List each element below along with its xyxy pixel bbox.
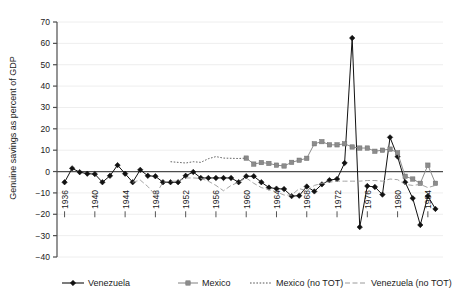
data-point-marker xyxy=(267,161,271,165)
data-point-marker xyxy=(342,142,346,146)
chart-figure: −40−30−20−10010203040506070 193619401944… xyxy=(0,0,453,300)
data-point-marker xyxy=(403,174,407,178)
y-tick-label: −30 xyxy=(36,231,51,241)
data-point-marker xyxy=(252,162,256,166)
data-point-marker xyxy=(282,164,286,168)
data-point-marker xyxy=(358,146,362,150)
x-tick-label: 1960 xyxy=(242,190,252,209)
data-point-marker xyxy=(426,163,430,167)
x-tick-label: 1968 xyxy=(302,190,312,209)
legend-label: Venezuela (no TOT) xyxy=(371,278,452,288)
data-point-marker xyxy=(411,177,415,181)
x-tick-label: 1976 xyxy=(363,190,373,209)
y-tick-label: 40 xyxy=(41,81,51,91)
legend-label: Venezuela xyxy=(88,278,130,288)
y-tick-label: 30 xyxy=(41,102,51,112)
y-tick-label: −20 xyxy=(36,209,51,219)
y-axis-title: Genuine savings as percent of GDP xyxy=(8,56,18,200)
x-tick-label: 1972 xyxy=(333,190,343,209)
data-point-marker xyxy=(395,151,399,155)
data-point-marker xyxy=(335,143,339,147)
data-point-marker xyxy=(388,147,392,151)
x-tick-label: 1948 xyxy=(151,190,161,209)
data-point-marker xyxy=(186,281,190,285)
data-point-marker xyxy=(259,160,263,164)
legend-label: Mexico xyxy=(202,278,231,288)
data-point-marker xyxy=(297,158,301,162)
y-tick-label: 0 xyxy=(45,167,50,177)
x-tick-label: 1952 xyxy=(181,190,191,209)
data-point-marker xyxy=(305,156,309,160)
y-tick-label: 50 xyxy=(41,60,51,70)
data-point-marker xyxy=(373,149,377,153)
data-point-marker xyxy=(365,146,369,150)
data-point-marker xyxy=(312,142,316,146)
data-point-marker xyxy=(320,139,324,143)
y-tick-label: 10 xyxy=(41,145,51,155)
legend-label: Mexico (no TOT) xyxy=(276,278,343,288)
genuine-savings-line-chart: −40−30−20−10010203040506070 193619401944… xyxy=(0,0,453,300)
data-point-marker xyxy=(289,160,293,164)
x-tick-label: 1936 xyxy=(60,190,70,209)
y-tick-label: −40 xyxy=(36,252,51,262)
y-tick-label: −10 xyxy=(36,188,51,198)
x-tick-label: 1956 xyxy=(211,190,221,209)
x-tick-label: 1964 xyxy=(272,190,282,209)
x-tick-label: 1940 xyxy=(90,190,100,209)
data-point-marker xyxy=(274,163,278,167)
y-tick-label: 20 xyxy=(41,124,51,134)
x-tick-label: 1980 xyxy=(393,190,403,209)
x-tick-label: 1944 xyxy=(121,190,131,209)
data-point-marker xyxy=(350,145,354,149)
y-tick-label: 70 xyxy=(41,17,51,27)
data-point-marker xyxy=(433,181,437,185)
y-tick-label: 60 xyxy=(41,38,51,48)
data-point-marker xyxy=(380,148,384,152)
data-point-marker xyxy=(327,143,331,147)
